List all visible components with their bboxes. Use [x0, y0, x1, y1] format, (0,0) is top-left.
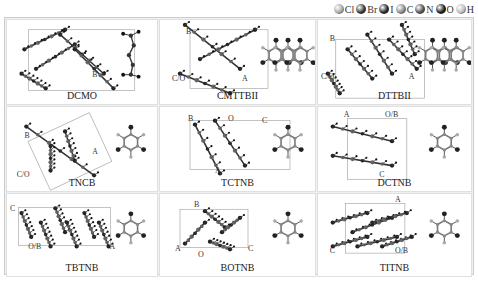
molecule-chain [39, 219, 56, 249]
axis-label: C [10, 204, 15, 213]
axis-label: O [228, 114, 234, 123]
axis-label: A [242, 74, 248, 83]
molecule-chain [19, 70, 50, 91]
axis-label: O [198, 250, 204, 259]
legend-item-cl: Cl [334, 4, 354, 15]
molecule-structure [429, 125, 460, 159]
axis-label: A [215, 167, 221, 176]
compound-name: TCTNB [160, 177, 315, 188]
axis-label: O/B [385, 110, 398, 119]
molecule-chain [48, 142, 55, 173]
compound-name: DTTBII [318, 90, 471, 101]
molecule-chain [58, 31, 109, 76]
molecule-chain [203, 207, 230, 229]
legend-label: N [426, 4, 433, 15]
axis-label: B [92, 70, 97, 79]
legend-label: O [447, 4, 454, 15]
molecule-chain [183, 219, 210, 246]
molecule-chain [331, 123, 397, 144]
atom-sphere-icon [334, 4, 344, 14]
atom-sphere-icon [436, 4, 446, 14]
molecule-structure [272, 125, 303, 159]
molecule-structure [429, 211, 460, 244]
molecule-structure [417, 38, 471, 72]
compound-name: DCTNB [318, 177, 471, 188]
compound-name: TNCB [7, 177, 157, 188]
legend-item-c: C [396, 4, 414, 15]
molecule-structure [272, 211, 303, 244]
panel-tctnb: BOCATCTNB [159, 106, 316, 192]
axis-label: O/B [28, 242, 41, 251]
panel-tbtnb: CO/BATBTNB [6, 193, 158, 277]
compound-name: TBTNB [7, 262, 157, 273]
atom-sphere-icon [415, 4, 425, 14]
axis-label: B [186, 27, 191, 36]
legend-item-br: Br [356, 4, 377, 15]
axis-label: C/O [172, 74, 186, 83]
molecule-chain [183, 21, 245, 71]
panel-tncb: BC/OATNCB [6, 106, 158, 192]
axis-label: B [330, 35, 335, 44]
axis-label: O/B [395, 246, 408, 255]
atom-sphere-icon [456, 4, 466, 14]
legend-label: Cl [345, 4, 354, 15]
axis-label: B [194, 201, 199, 210]
atom-legend: ClBrICNOH [332, 3, 474, 15]
molecule-structure [116, 211, 146, 244]
panel-cmttbii: BC/OACMTTBII [159, 19, 316, 105]
legend-item-n: N [415, 4, 433, 15]
legend-item-h: H [456, 4, 474, 15]
molecule-chain [331, 233, 373, 249]
molecule-chain [82, 209, 99, 239]
molecule-chain [208, 238, 235, 252]
molecule-chain [53, 204, 70, 234]
axis-label: A [175, 244, 181, 253]
molecule-chain [19, 209, 36, 239]
axis-label: B [24, 131, 29, 140]
panel-dttbii: BC/OADTTBII [317, 19, 472, 105]
axis-label: C [248, 244, 253, 253]
atom-sphere-icon [379, 4, 389, 14]
axis-label: C/O [321, 72, 334, 81]
atom-sphere-icon [396, 4, 406, 14]
crystal-structure-grid: BDCMOBC/OACMTTBIIBC/OADTTBIIBC/OATNCBBOC… [4, 17, 474, 275]
panel-botnb: BAOCBOTNB [159, 193, 316, 277]
axis-label: A [409, 72, 415, 81]
molecule-chain [24, 123, 99, 178]
molecule-structure [121, 30, 140, 79]
compound-name: DCMO [7, 90, 157, 101]
molecule-chain [331, 209, 373, 225]
legend-label: C [407, 4, 414, 15]
legend-label: I [390, 4, 393, 15]
molecule-chain [220, 214, 245, 234]
legend-item-i: I [379, 4, 393, 15]
molecule-structure [260, 38, 315, 72]
axis-label: C [262, 116, 267, 125]
atom-sphere-icon [356, 4, 366, 14]
molecule-chain [65, 219, 82, 249]
molecule-structure [116, 125, 146, 159]
molecule-chain [400, 21, 420, 56]
axis-label: B [188, 114, 193, 123]
legend-label: H [467, 4, 474, 15]
legend-item-o: O [436, 4, 454, 15]
axis-label: C [330, 246, 335, 255]
panel-titnb: ACO/BTITNB [317, 193, 472, 277]
panel-dcmo: BDCMO [6, 19, 158, 105]
molecule-chain [213, 117, 250, 168]
molecule-chain [331, 152, 397, 168]
panel-dctnb: AO/BCDCTNB [317, 106, 472, 192]
axis-label: A [344, 110, 350, 119]
compound-name: CMTTBII [160, 90, 315, 101]
axis-label: A [395, 195, 401, 204]
axis-label: A [92, 147, 98, 156]
compound-name: BOTNB [160, 262, 315, 273]
molecule-chain [345, 45, 377, 80]
axis-label: A [110, 242, 116, 251]
legend-label: Br [367, 4, 377, 15]
compound-name: TITNB [318, 262, 471, 273]
